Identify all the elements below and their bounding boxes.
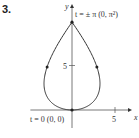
curve-point (70, 108, 73, 111)
x-axis-label: x (133, 113, 138, 122)
y-axis-arrow (70, 4, 74, 8)
curve-point (70, 21, 73, 24)
direction-arrow-right (46, 65, 49, 68)
parametric-plot: xy55t = ± π (0, π²)t = 0 (0, 0) (0, 0, 139, 138)
x-axis-arrow (128, 108, 132, 112)
x-tick-label: 5 (112, 115, 116, 124)
annotation-top: t = ± π (0, π²) (75, 10, 118, 19)
direction-arrow-left (95, 65, 98, 68)
y-tick-label: 5 (63, 62, 67, 71)
annotation-origin: t = 0 (0, 0) (30, 115, 64, 124)
y-axis-label: y (64, 2, 69, 11)
